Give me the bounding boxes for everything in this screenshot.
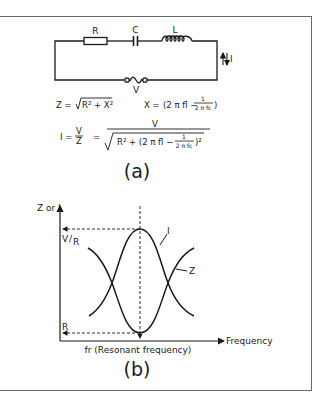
i-den-den: 2 π fc xyxy=(176,142,193,149)
wire-left xyxy=(55,41,124,80)
ac-tilde-icon xyxy=(130,77,142,83)
x-frac-num: 1 xyxy=(201,95,205,102)
wire-right xyxy=(147,41,217,80)
i-frac-num: V xyxy=(76,126,82,136)
x-frac-den: 2 π fc xyxy=(195,104,212,111)
i-den-a: R² + (2 π fl − xyxy=(117,137,173,147)
peak-label-v-over-r: V / R xyxy=(62,234,79,247)
peak-label-v: V xyxy=(62,234,69,244)
curve-current xyxy=(89,229,194,316)
i-den-num: 1 xyxy=(182,133,186,140)
peak-label-r: R xyxy=(73,237,79,247)
resonance-graph xyxy=(60,206,224,341)
z-lhs: Z = xyxy=(56,100,72,110)
i-den-close: )² xyxy=(195,137,202,147)
equation-i: I = V Z = V R² + (2 π fl − 1 2 π fc )² xyxy=(60,119,210,150)
fr-label: fr (Resonant frequency) xyxy=(85,345,192,355)
equation-x: X = (2 π fl − 1 2 π fc ) xyxy=(144,95,217,111)
x-close: ) xyxy=(214,100,217,110)
resistor-symbol xyxy=(84,38,107,45)
inductor-label: L xyxy=(172,25,177,35)
min-label-r: R xyxy=(62,322,68,332)
curve-impedance xyxy=(88,248,194,333)
caption-a: (a) xyxy=(124,160,150,182)
equation-z: Z = R² + X² xyxy=(56,98,113,110)
curve-z-label: Z xyxy=(189,266,195,276)
capacitor-label: C xyxy=(132,25,138,35)
curve-i-label: I xyxy=(167,226,170,236)
y-axis-label: Z or I xyxy=(37,203,61,213)
circuit-diagram xyxy=(55,36,227,83)
resistor-label: R xyxy=(92,26,98,36)
fr-marker-icon xyxy=(138,334,143,339)
figure-canvas: R C L V I Z = R² + X² X = (2 π fl − 1 2 … xyxy=(0,0,318,400)
z-radicand: R² + X² xyxy=(82,100,113,110)
current-label: I xyxy=(230,54,233,64)
caption-b: (b) xyxy=(124,358,151,380)
source-label: V xyxy=(133,85,140,95)
i-lhs: I = xyxy=(60,132,72,142)
curve-i-leader xyxy=(160,234,167,245)
i-frac-den: Z xyxy=(76,136,82,146)
x-axis-label: Frequency xyxy=(226,336,273,346)
x-lhs: X = xyxy=(144,100,160,110)
x-open: (2 π fl − xyxy=(163,100,197,110)
source-terminal-left xyxy=(125,78,129,82)
curve-z-leader xyxy=(176,269,187,271)
inductor-symbol xyxy=(162,36,192,41)
i-num: V xyxy=(152,119,158,129)
i-equals: = xyxy=(93,132,100,142)
source-terminal-right xyxy=(143,78,147,82)
